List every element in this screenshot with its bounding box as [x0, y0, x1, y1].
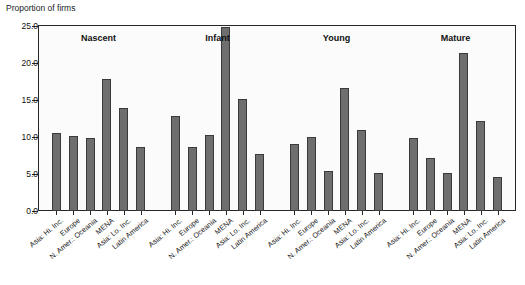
- bar: [459, 53, 468, 211]
- x-tick-mark: [498, 211, 499, 215]
- x-tick-mark: [294, 211, 295, 215]
- bar: [188, 147, 197, 211]
- group-title-infant: Infant: [205, 33, 230, 43]
- bar: [171, 116, 180, 211]
- x-tick-mark: [226, 211, 227, 215]
- x-tick-mark: [481, 211, 482, 215]
- bar: [86, 138, 95, 211]
- x-tick-mark: [379, 211, 380, 215]
- bar: [221, 27, 230, 211]
- bar: [493, 177, 502, 211]
- x-tick-mark: [124, 211, 125, 215]
- y-tick-label: 10.0: [8, 132, 38, 142]
- y-tick-label: 25.0: [8, 21, 38, 31]
- group-title-young: Young: [323, 33, 350, 43]
- x-tick-mark: [311, 211, 312, 215]
- x-tick-mark: [192, 211, 193, 215]
- y-tick-label: 0.0: [8, 206, 38, 216]
- y-tick-label: 15.0: [8, 95, 38, 105]
- bar: [409, 138, 418, 211]
- bar: [340, 88, 349, 211]
- y-tick-label: 20.0: [8, 58, 38, 68]
- x-tick-mark: [328, 211, 329, 215]
- x-tick-mark: [107, 211, 108, 215]
- bar: [205, 135, 214, 211]
- bar: [374, 173, 383, 211]
- bar: [255, 154, 264, 211]
- x-tick-mark: [345, 211, 346, 215]
- chart-root: Proportion of firms 0.05.010.015.020.025…: [0, 0, 525, 285]
- bar: [102, 79, 111, 211]
- group-title-mature: Mature: [441, 33, 471, 43]
- bar: [307, 137, 316, 211]
- bar: [426, 158, 435, 211]
- bar: [357, 130, 366, 211]
- y-tick-label: 5.0: [8, 169, 38, 179]
- x-tick-mark: [413, 211, 414, 215]
- x-tick-mark: [260, 211, 261, 215]
- x-tick-mark: [243, 211, 244, 215]
- x-tick-mark: [56, 211, 57, 215]
- bar: [443, 173, 452, 211]
- bar: [238, 99, 247, 211]
- x-tick-mark: [141, 211, 142, 215]
- x-tick-mark: [362, 211, 363, 215]
- x-tick-mark: [209, 211, 210, 215]
- x-tick-mark: [73, 211, 74, 215]
- bar: [476, 121, 485, 211]
- x-tick-mark: [90, 211, 91, 215]
- y-axis-title: Proportion of firms: [6, 3, 75, 13]
- x-tick-mark: [447, 211, 448, 215]
- x-tick-mark: [464, 211, 465, 215]
- bars-layer: [39, 26, 515, 211]
- bar: [69, 136, 78, 211]
- x-tick-mark: [430, 211, 431, 215]
- bar: [119, 108, 128, 211]
- x-tick-mark: [175, 211, 176, 215]
- group-title-nascent: Nascent: [81, 33, 116, 43]
- bar: [136, 147, 145, 211]
- bar: [52, 133, 61, 211]
- bar: [290, 144, 299, 211]
- bar: [324, 171, 333, 211]
